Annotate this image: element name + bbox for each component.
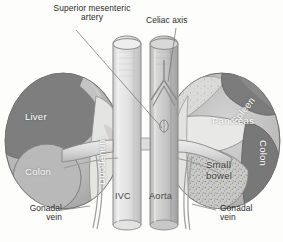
ivc-vessel	[113, 36, 141, 230]
figure-caption	[4, 232, 279, 242]
aorta-vessel	[150, 36, 178, 230]
anatomy-illustration	[0, 0, 283, 242]
left-kidney-group	[1, 65, 121, 212]
anatomical-figure: Superior mesenteric artery Celiac axis L…	[0, 0, 283, 242]
